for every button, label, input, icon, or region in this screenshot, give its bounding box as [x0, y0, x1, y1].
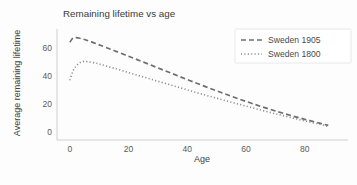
x-axis-ticks: 020406080 — [68, 144, 310, 154]
y-axis-title: Average remaining lifetime — [12, 30, 22, 136]
x-tick-label: 0 — [68, 144, 73, 154]
y-tick-label: 60 — [43, 43, 53, 53]
chart-title: Remaining lifetime vs age — [63, 8, 176, 19]
x-tick-label: 80 — [300, 144, 310, 154]
x-axis-title: Age — [194, 154, 210, 164]
y-tick-label: 40 — [43, 71, 53, 81]
x-tick-label: 60 — [241, 144, 251, 154]
x-tick-label: 20 — [124, 144, 134, 154]
legend-label-sweden-1905: Sweden 1905 — [268, 35, 321, 45]
y-axis-ticks: 0204060 — [43, 43, 53, 136]
y-tick-label: 0 — [47, 127, 52, 137]
chart-screenshot: Remaining lifetime vs age 0204060 020406… — [0, 0, 357, 185]
series-line-sweden-1800 — [70, 61, 328, 126]
chart-legend: Sweden 1905 Sweden 1800 — [235, 29, 351, 63]
y-tick-label: 20 — [43, 99, 53, 109]
legend-label-sweden-1800: Sweden 1800 — [268, 49, 321, 59]
x-tick-label: 40 — [183, 144, 193, 154]
line-chart: Remaining lifetime vs age 0204060 020406… — [0, 0, 357, 185]
